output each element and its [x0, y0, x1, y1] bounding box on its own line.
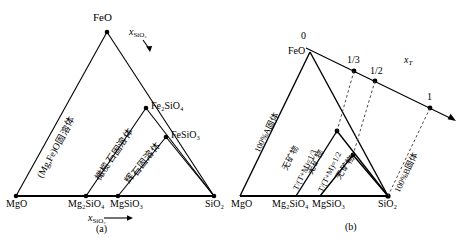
panel-b-base-label-mgo: MgO — [231, 199, 252, 209]
panel-b-scale-tick-0: 0 — [301, 31, 306, 41]
panel-a-base-label-mg2sio4: Mg₂SiO₄ — [68, 199, 104, 209]
panel-b-scale-tick-1: 1/3 — [347, 55, 360, 65]
panel-b-scale-axis — [306, 48, 456, 121]
panel-a-top-axis-label: xSiO₂ — [129, 27, 147, 39]
panel-a-caption: (a) — [96, 224, 107, 234]
panel-b-base-label-mg2sio4: Mg₂SiO₄ — [272, 199, 308, 209]
panel-a-top-axis-arrow — [143, 40, 152, 52]
panel-a-base-label-sio2: SiO₂ — [205, 199, 224, 209]
panel-a-bottom-axis-arrow — [104, 215, 133, 221]
panel-b-base-label-sio2: SiO₂ — [378, 199, 397, 209]
figure-container: FeO xSiO₂ Fe₂SiO₄ FeSiO₃ MgO Mg₂SiO₄ MgS… — [0, 0, 464, 238]
panel-a-base-label-mgo: MgO — [6, 199, 27, 209]
panel-a-point-fesio3: FeSiO₃ — [171, 130, 200, 140]
panel-b-scale-tick-2: 1/2 — [370, 66, 383, 76]
panel-b-scale-tick-3: 1 — [427, 92, 432, 102]
panel-b-scale-axis-label: xT — [404, 55, 412, 67]
panel-b-base-label-mgsio3: MgSiO₃ — [312, 199, 345, 209]
panel-b-caption: (b) — [345, 222, 357, 232]
panel-a-base-label-mgsio3: MgSiO₃ — [110, 199, 143, 209]
panel-b-dashed-projectors — [337, 71, 430, 196]
panel-a-point-fe2sio4: Fe₂SiO₄ — [151, 101, 184, 111]
panel-a-apex-label: FeO — [93, 12, 112, 23]
panel-b-apex-label: FeO — [288, 46, 305, 56]
